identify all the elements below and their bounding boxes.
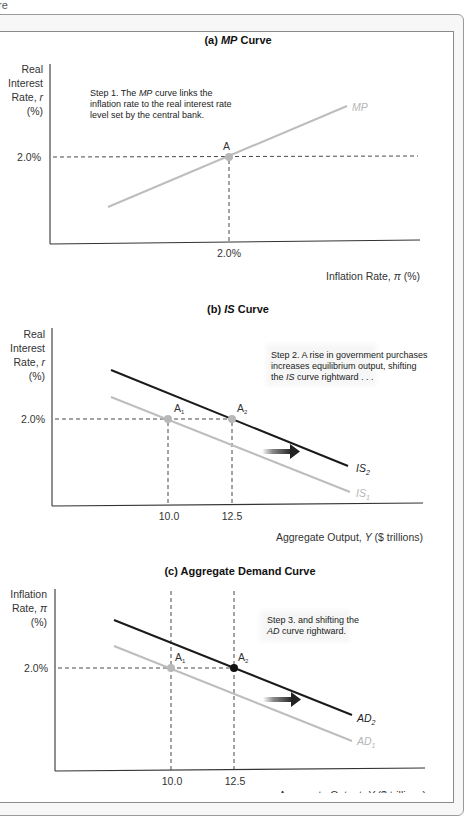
svg-text:(%): (%) [27,105,43,117]
svg-text:Real: Real [23,328,45,340]
panel-a-step1-note: Step 1. The MP curve links the inflation… [90,88,232,120]
panel-a-mp-curve: (a) MP Curve Real Interest Rate, r (%) 2… [8,34,420,282]
panel-a-y-axis-label: Real Interest Rate, r (%) [8,63,44,117]
panel-b-x-tick-10: 10.0 [159,510,180,522]
panel-a-x-axis-label: Inflation Rate, π (%) [326,270,420,282]
svg-text:level set by the central bank.: level set by the central bank. [90,110,204,120]
svg-text:Real: Real [21,63,43,75]
panel-b-step2-note: Step 2. A rise in government purchases i… [266,344,428,386]
panel-b-y-axis-label: Real Interest Rate, r (%) [10,328,46,382]
panel-b-x-tick-12-5: 12.5 [222,510,243,522]
svg-text:AD curve rightward.: AD curve rightward. [266,626,346,636]
panel-c-shift-arrow-icon [263,692,301,707]
panel-c-y-tick: 2.0% [24,662,48,674]
panel-b-y-tick: 2.0% [21,413,45,425]
mp-curve-label: MP [352,101,368,113]
panel-c-ad-curve: (c) Aggregate Demand Curve Inflation Rat… [10,565,426,793]
panel-a-x-tick: 2.0% [217,247,241,259]
point-a1-label: A1 [175,651,186,664]
panel-c-x-tick-10: 10.0 [162,775,183,787]
point-a2 [230,664,238,672]
svg-text:(%): (%) [31,616,47,628]
svg-text:Rate, r: Rate, r [11,91,43,103]
svg-text:Step 1. The MP curve links the: Step 1. The MP curve links the [90,88,212,98]
panel-c-x-axis-label: Aggregate Output, Y ($ trillions) [279,789,426,793]
point-a2-label: A2 [237,402,248,415]
panel-c-y-axis-label: Inflation Rate, π (%) [10,588,48,628]
panel-a-x-axis [50,240,420,244]
panel-c-x-tick-12-5: 12.5 [225,775,246,787]
panel-a-title: (a) MP Curve [204,34,271,46]
ad2-curve-label: AD2 [356,712,376,726]
panel-b-title: (b) IS Curve [207,303,269,315]
is2-curve-label: IS2 [356,462,370,476]
svg-text:inflation rate to the real int: inflation rate to the real interest rate [90,99,232,109]
svg-text:Interest: Interest [8,77,43,89]
point-a [225,153,233,161]
point-a1-label: A1 [174,402,185,415]
point-a1 [164,415,172,423]
panel-c-step3-note: Step 3. and shifting the AD curve rightw… [260,610,359,642]
panel-b-x-axis-label: Aggregate Output, Y ($ trillions) [276,531,423,543]
is1-curve [111,397,350,492]
panel-b-x-axis [52,503,423,506]
point-a-label: A [223,140,230,152]
point-a1 [167,664,175,672]
svg-text:Step 3. and shifting the: Step 3. and shifting the [267,615,359,625]
svg-text:Interest: Interest [10,342,45,354]
svg-text:increases equilibrium output,: increases equilibrium output, shifting [271,361,417,371]
is1-curve-label: IS1 [356,487,370,501]
ad1-curve-label: AD1 [356,735,376,749]
point-a2 [228,415,236,423]
svg-text:(%): (%) [29,370,45,382]
svg-text:Step 2. A rise in government p: Step 2. A rise in government purchases [271,350,428,360]
ad1-curve [114,646,352,741]
panel-b-shift-arrow-icon [262,444,300,459]
panel-b-is-curve: (b) IS Curve Real Interest Rate, r (%) 2… [10,303,428,543]
svg-text:Rate, r: Rate, r [13,356,45,368]
point-a2-label: A2 [238,651,249,664]
svg-text:the IS curve rightward . . .: the IS curve rightward . . . [271,372,374,382]
panel-c-x-axis [55,768,425,771]
svg-text:Inflation: Inflation [10,588,47,600]
svg-text:Rate, π: Rate, π [12,602,48,614]
panel-a-dashed-horizontal [53,156,418,157]
panel-a-y-tick: 2.0% [17,151,41,163]
panel-c-title: (c) Aggregate Demand Curve [164,565,315,577]
